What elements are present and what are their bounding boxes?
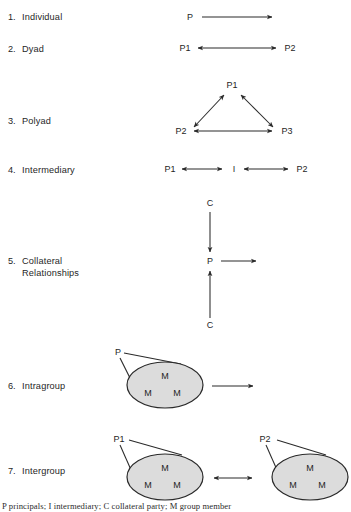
diagram-polyad: P1 P2 P3 [175,80,292,136]
diagram-dyad: P1 P2 [179,43,295,53]
member-m-intergroup1-3: M [173,480,181,490]
member-m-intergroup2-3: M [318,480,326,490]
node-p1-intergroup: P1 [113,434,124,444]
node-p2-intermediary: P2 [296,164,307,174]
node-p2-dyad: P2 [284,43,295,53]
group-ellipse-intergroup-2 [272,454,348,500]
node-c-top-collateral: C [207,198,214,208]
member-m-intragroup-1: M [161,371,169,381]
node-p1-polyad: P1 [226,80,237,90]
node-p2-polyad: P2 [175,126,186,136]
node-p-intragroup: P [115,347,121,357]
diagram-intergroup: P1 M M M P2 M M M [113,434,348,500]
diagram-canvas: P P1 P2 P1 P2 P3 P1 I P2 [0,0,351,512]
tangent-upper-intergroup-group1 [129,440,182,455]
node-p1-dyad: P1 [179,43,190,53]
node-p-individual: P [187,12,193,22]
arrow-polyad-p1-p3 [241,95,273,127]
arrow-polyad-p2-p1 [194,95,224,127]
member-m-intragroup-2: M [144,388,152,398]
node-i-intermediary: I [233,164,236,174]
node-p-collateral: P [207,256,213,266]
node-p1-intermediary: P1 [164,164,175,174]
tangent-upper-intergroup-group2 [277,440,326,455]
group-ellipse-intergroup-1 [127,454,203,500]
figure-legend: P principals; I intermediary; C collater… [2,501,231,511]
member-m-intergroup2-1: M [306,463,314,473]
diagram-intragroup: P M M M [115,347,253,408]
member-m-intragroup-3: M [173,388,181,398]
node-c-bottom-collateral: C [207,320,214,330]
node-p3-polyad: P3 [281,126,292,136]
diagram-collateral: C P C [207,198,256,330]
member-m-intergroup1-1: M [161,463,169,473]
group-ellipse-intragroup [127,362,203,408]
diagram-intermediary: P1 I P2 [164,164,307,174]
member-m-intergroup2-2: M [289,480,297,490]
member-m-intergroup1-2: M [144,480,152,490]
node-p2-intergroup: P2 [259,434,270,444]
diagram-individual: P [187,12,272,22]
relationship-types-figure: 1. Individual 2. Dyad 3. Polyad 4. Inter… [0,0,351,512]
